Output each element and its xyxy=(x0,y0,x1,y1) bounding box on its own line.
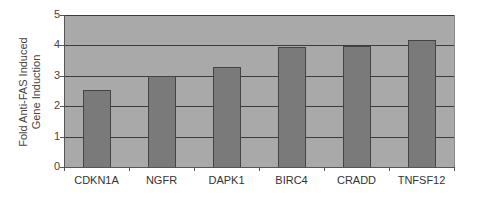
bar-chart: Fold Anti-FAS Induced Gene Induction 0 1… xyxy=(0,0,478,198)
x-tick-label: TNFSF12 xyxy=(390,174,454,186)
bar-cdkn1a xyxy=(84,91,111,168)
x-tick-label: NGFR xyxy=(130,174,194,186)
x-tick-label: CRADD xyxy=(325,174,389,186)
x-tick-label: DAPK1 xyxy=(195,174,259,186)
bar-tnfsf12 xyxy=(409,41,436,168)
x-tick-label: BIRC4 xyxy=(260,174,324,186)
bar-dapk1 xyxy=(214,68,241,168)
bar-cradd xyxy=(344,47,371,168)
x-tick-label: CDKN1A xyxy=(65,174,129,186)
plot-area xyxy=(0,0,478,198)
bar-ngfr xyxy=(149,77,176,168)
plot-background xyxy=(64,15,454,167)
bar-birc4 xyxy=(279,48,306,168)
